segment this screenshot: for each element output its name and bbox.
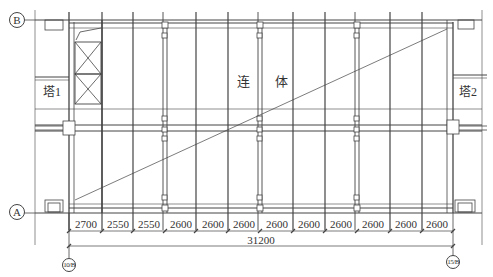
bay-dimension: 2550 [138, 219, 160, 230]
axis-label-a: A [9, 204, 25, 220]
bay-dimension: 2600 [298, 219, 320, 230]
tower-2-label: 塔2 [459, 86, 477, 98]
bay-dimension: 2550 [107, 219, 129, 230]
bay-dimension: 2600 [233, 219, 255, 230]
bay-dimension: 2700 [75, 219, 97, 230]
connection-label-char-1: 连 [237, 75, 250, 88]
bay-dimension: 2600 [266, 219, 288, 230]
axis-label-15b: 15/B [446, 255, 460, 269]
tower-1-label: 塔1 [43, 86, 61, 98]
bay-dimension: 2600 [170, 219, 192, 230]
connection-label-char-2: 体 [275, 75, 288, 88]
bay-dimension: 2600 [362, 219, 384, 230]
bay-dimension: 2600 [426, 219, 448, 230]
bay-dimension: 2600 [330, 219, 352, 230]
axis-label-b: B [9, 12, 25, 28]
structural-plan-diagram: B A 10/B 15/B 塔1 塔2 连 体 2700 2550 2550 2… [0, 0, 493, 277]
bay-dimension: 2600 [395, 219, 417, 230]
axis-label-10b: 10/B [62, 258, 76, 272]
bay-dimension: 2600 [202, 219, 224, 230]
total-dimension: 31200 [247, 235, 275, 246]
